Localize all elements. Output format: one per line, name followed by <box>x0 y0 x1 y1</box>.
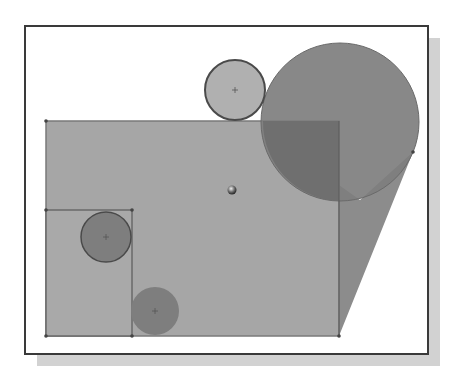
cad-sketch-canvas <box>0 0 453 373</box>
tangent-point[interactable] <box>411 150 415 154</box>
origin-point-icon[interactable] <box>228 186 237 195</box>
